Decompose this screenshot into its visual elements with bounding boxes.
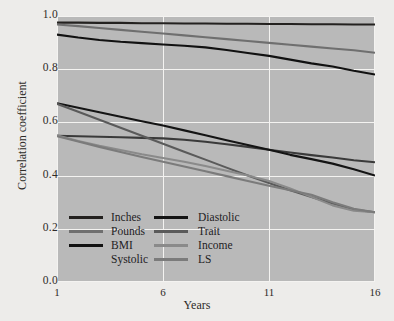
x-tick-label: 11 bbox=[254, 286, 284, 298]
x-axis-label: Years bbox=[0, 298, 394, 313]
legend-swatch-ls bbox=[154, 258, 188, 261]
series-line-inches bbox=[57, 23, 375, 25]
legend-swatch-pounds bbox=[69, 230, 103, 233]
y-tick-label: 1.0 bbox=[18, 8, 58, 20]
legend-swatch-inches bbox=[69, 216, 103, 219]
y-axis-label: Correlation coefficient bbox=[15, 26, 30, 246]
legend-label-diastolic: Diastolic bbox=[198, 211, 240, 224]
legend-swatch-bmi bbox=[69, 244, 103, 247]
series-line-trait bbox=[57, 104, 375, 213]
chart-figure: 0.00.20.40.60.81.0 161116 Years Correlat… bbox=[0, 0, 394, 321]
legend-label-bmi: BMI bbox=[111, 239, 148, 252]
x-tick-label: 6 bbox=[148, 286, 178, 298]
series-line-ls bbox=[57, 136, 375, 212]
legend-swatch-systolic bbox=[69, 258, 103, 261]
legend-label-systolic: Systolic bbox=[111, 253, 148, 266]
legend-label-ls: LS bbox=[198, 253, 240, 266]
x-tick-label: 16 bbox=[360, 286, 390, 298]
legend-label-inches: Inches bbox=[111, 211, 148, 224]
legend-label-pounds: Pounds bbox=[111, 225, 148, 238]
y-tick-label: 0.0 bbox=[18, 274, 58, 286]
legend-label-income: Income bbox=[198, 239, 240, 252]
legend-label-trait: Trait bbox=[198, 225, 240, 238]
legend-swatch-income bbox=[154, 244, 188, 247]
chart-legend: InchesDiastolicPoundsTraitBMIIncomeSysto… bbox=[69, 211, 240, 266]
series-line-bmi bbox=[57, 35, 375, 75]
legend-swatch-trait bbox=[154, 230, 188, 233]
x-tick-label: 1 bbox=[42, 286, 72, 298]
legend-swatch-diastolic bbox=[154, 216, 188, 219]
